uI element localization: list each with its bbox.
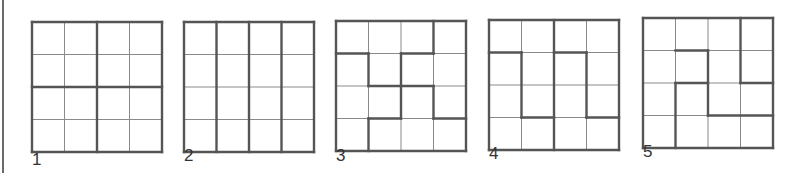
puzzle-label-2: 2 <box>184 146 193 166</box>
puzzle-label-1: 1 <box>32 150 41 170</box>
puzzle-label-4: 4 <box>489 144 498 164</box>
puzzle-grid-4 <box>487 18 621 152</box>
puzzle-grid-3 <box>334 19 468 153</box>
puzzle-grid-5 <box>641 16 775 150</box>
puzzle-grid-1 <box>30 20 164 154</box>
puzzle-label-5: 5 <box>643 142 652 162</box>
puzzle-label-3: 3 <box>336 146 345 166</box>
left-margin-rule <box>2 0 4 173</box>
puzzle-grid-2 <box>182 20 316 154</box>
